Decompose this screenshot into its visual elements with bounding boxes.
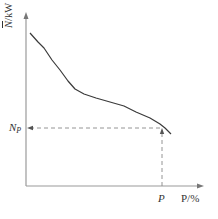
- p-tick-label: P: [158, 193, 165, 204]
- x-axis-arrow-icon: [197, 184, 204, 189]
- y-axis-arrow-icon: [24, 12, 29, 19]
- y-axis-symbol: N: [3, 21, 14, 28]
- p-arrow-icon: [160, 128, 164, 134]
- np-tick-label: NP: [9, 122, 21, 135]
- np-arrow-icon: [27, 126, 33, 130]
- chart-canvas: [0, 0, 218, 219]
- x-axis-label: P/%: [181, 193, 199, 204]
- y-axis-unit: /kW: [3, 3, 14, 21]
- y-axis-label: N/kW: [4, 3, 15, 28]
- np-subscript: P: [16, 126, 21, 135]
- data-curve: [30, 33, 171, 134]
